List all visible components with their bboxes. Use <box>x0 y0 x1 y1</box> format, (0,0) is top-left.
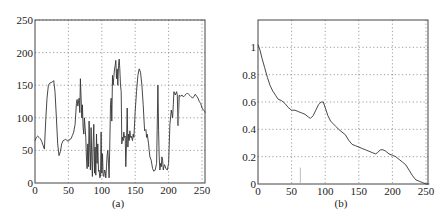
y-tick-label: 0.6 <box>242 96 256 108</box>
y-tick-label: 250 <box>17 14 34 26</box>
x-tick-label: 150 <box>351 185 368 197</box>
panel-label-a: (a) <box>112 197 125 210</box>
y-tick-label: 1 <box>251 41 257 53</box>
y-tick-label: 150 <box>17 79 34 91</box>
panel-label-b: (b) <box>335 197 348 210</box>
x-tick-label: 100 <box>317 185 334 197</box>
x-tick-label: 50 <box>286 185 298 197</box>
chart-panel-b: 05010015020025000.20.40.60.81 <box>242 20 435 197</box>
y-tick-label: 0.8 <box>242 69 256 81</box>
data-line <box>35 59 205 178</box>
y-tick-label: 0.4 <box>242 123 256 135</box>
x-tick-label: 0 <box>32 184 38 196</box>
y-tick-label: 0 <box>28 177 34 189</box>
y-tick-label: 0 <box>251 178 257 190</box>
x-tick-label: 200 <box>160 184 177 196</box>
x-tick-label: 250 <box>194 184 211 196</box>
x-tick-label: 100 <box>94 184 111 196</box>
x-tick-label: 250 <box>418 185 435 197</box>
figure: 050100150200250050100150200250 (a) 05010… <box>0 0 443 221</box>
chart-panel-a: 050100150200250050100150200250 <box>17 14 211 196</box>
y-tick-label: 0.2 <box>242 151 256 163</box>
y-tick-label: 50 <box>22 144 34 156</box>
x-tick-label: 150 <box>127 184 144 196</box>
plot-frame <box>35 20 205 183</box>
data-line <box>258 45 429 184</box>
x-tick-label: 200 <box>384 185 401 197</box>
y-tick-label: 200 <box>17 47 34 59</box>
x-tick-label: 50 <box>63 184 75 196</box>
y-tick-label: 100 <box>17 112 34 124</box>
x-tick-label: 0 <box>255 185 261 197</box>
